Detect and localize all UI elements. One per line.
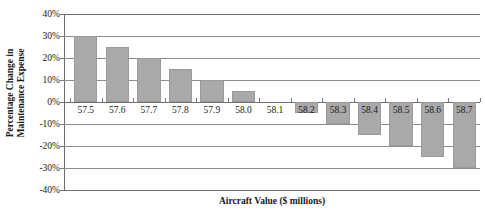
gridline — [64, 146, 480, 147]
x-axis-category-label: 58.5 — [385, 105, 417, 116]
y-axis-tick-labels: 40%30%20%10%0%-10%-20%-30%-40% — [30, 0, 60, 190]
y-axis-tick-label: 30% — [30, 31, 60, 41]
x-axis-tick-mark — [133, 98, 134, 102]
y-axis-tick-label: -20% — [30, 141, 60, 151]
y-axis-tick-mark — [60, 168, 64, 169]
x-axis-category-label: 58.4 — [354, 105, 386, 116]
gridline — [64, 168, 480, 169]
x-axis-tick-mark — [480, 98, 481, 102]
y-axis-tick-mark — [60, 36, 64, 37]
x-axis-category-label: 57.5 — [70, 105, 102, 116]
x-axis-category-label: 58.2 — [291, 105, 323, 116]
gridline — [64, 14, 480, 15]
x-axis-tick-mark — [165, 98, 166, 102]
y-axis-tick-label: 0% — [30, 97, 60, 107]
bar-chart: Percentage Change in Maintenance Expense… — [0, 0, 485, 217]
x-axis-tick-mark — [417, 98, 418, 102]
y-axis-tick-label: 40% — [30, 9, 60, 19]
y-axis-tick-mark — [60, 190, 64, 191]
plot-area: 57.557.657.757.857.958.058.158.258.358.4… — [64, 14, 480, 190]
x-axis-tick-mark — [291, 98, 292, 102]
x-axis-tick-mark — [448, 98, 449, 102]
y-axis-tick-mark — [60, 124, 64, 125]
gridline — [64, 190, 480, 191]
x-axis-category-label: 58.7 — [448, 105, 480, 116]
x-axis-tick-mark — [228, 98, 229, 102]
bar — [200, 80, 223, 102]
y-axis-tick-mark — [60, 14, 64, 15]
y-axis-tick-mark — [60, 80, 64, 81]
gridline — [64, 124, 480, 125]
x-axis-category-label: 57.8 — [165, 105, 197, 116]
y-axis-tick-mark — [60, 58, 64, 59]
x-axis-title: Aircraft Value ($ millions) — [64, 196, 480, 206]
x-axis-category-label: 58.0 — [228, 105, 260, 116]
x-axis-category-label: 57.6 — [102, 105, 134, 116]
x-axis-tick-mark — [354, 98, 355, 102]
y-axis-tick-label: -40% — [30, 185, 60, 195]
x-axis-tick-mark — [259, 98, 260, 102]
y-axis-tick-label: -30% — [30, 163, 60, 173]
x-axis-tick-mark — [385, 98, 386, 102]
x-axis-tick-mark — [196, 98, 197, 102]
x-axis-category-label: 57.9 — [196, 105, 228, 116]
y-axis-tick-label: 10% — [30, 75, 60, 85]
y-axis-title-line-2: Maintenance Expense — [16, 48, 27, 137]
x-axis-tick-mark — [102, 98, 103, 102]
gridline — [64, 36, 480, 37]
x-axis-tick-mark — [322, 98, 323, 102]
y-axis-tick-mark — [60, 146, 64, 147]
x-axis-category-label: 58.1 — [259, 105, 291, 116]
x-axis-category-label: 58.3 — [322, 105, 354, 116]
y-axis-tick-label: -10% — [30, 119, 60, 129]
x-axis-category-label: 58.6 — [417, 105, 449, 116]
gridline — [64, 102, 480, 103]
x-axis-tick-mark — [70, 98, 71, 102]
y-axis-tick-label: 20% — [30, 53, 60, 63]
y-axis-title: Percentage Change in Maintenance Expense — [0, 0, 32, 185]
bar — [169, 69, 192, 102]
bar — [74, 36, 97, 102]
bar — [137, 58, 160, 102]
bar — [106, 47, 129, 102]
x-axis-category-label: 57.7 — [133, 105, 165, 116]
bar — [232, 91, 255, 102]
y-axis-title-line-1: Percentage Change in — [5, 48, 16, 137]
y-axis-tick-mark — [60, 102, 64, 103]
